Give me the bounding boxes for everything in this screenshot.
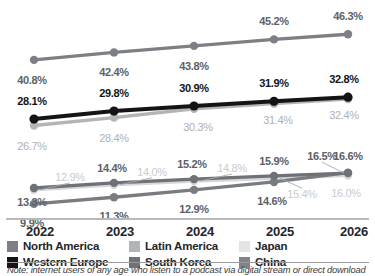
data-label-layer: 40.8%42.4%43.8%45.2%46.3%28.1%29.8%30.9%… [0,0,375,222]
data-label: 46.3% [333,10,363,22]
chart-note: Note: internet users of any age who list… [7,265,373,275]
data-label: 28.1% [17,95,47,107]
data-label: 12.9% [179,203,209,215]
data-label: 40.8% [17,74,47,86]
data-label: 15.9% [259,155,289,167]
data-label: 15.2% [177,158,207,170]
data-label: 26.7% [17,140,47,152]
data-label: 14.6% [257,195,287,207]
data-label: 14.4% [97,162,127,174]
legend-item-japan[interactable]: Japan [239,240,287,252]
data-label: 28.4% [99,132,129,144]
data-label: 32.8% [329,73,359,85]
data-label: 30.3% [183,121,213,133]
data-label: 31.9% [259,77,289,89]
podcast-listener-penetration-chart: 40.8%42.4%43.8%45.2%46.3%28.1%29.8%30.9%… [0,0,375,276]
x-tick-2022: 2022 [26,224,54,239]
legend-swatch-japan [239,241,250,252]
data-label: 31.4% [263,114,293,126]
legend-item-north-america[interactable]: North America [7,240,99,252]
x-tick-2024: 2024 [186,224,214,239]
data-label: 16.6% [333,150,363,162]
data-label: 15.4% [287,188,317,200]
legend-swatch-latin-america [129,241,140,252]
data-label: 30.9% [179,82,209,94]
x-tick-2026: 2026 [340,224,368,239]
data-label: 45.2% [259,15,289,27]
data-label: 43.8% [179,60,209,72]
data-label: 13.3% [17,196,47,208]
x-axis-line [6,218,369,220]
legend-label-japan: Japan [255,240,287,252]
legend-item-latin-america[interactable]: Latin America [129,240,218,252]
data-label: 16.0% [331,187,361,199]
data-label: 14.8% [217,162,247,174]
note-divider [7,262,369,263]
x-tick-2025: 2025 [266,224,294,239]
data-label: 32.4% [329,109,359,121]
legend-label-latin-america: Latin America [145,240,218,252]
x-axis: 2022 2023 2024 2025 2026 [6,218,369,240]
x-tick-2023: 2023 [106,224,134,239]
data-label: 12.9% [55,171,85,183]
legend-swatch-north-america [7,241,18,252]
data-label: 14.0% [137,166,167,178]
data-label: 42.4% [99,66,129,78]
data-label: 29.8% [99,87,129,99]
legend-label-north-america: North America [23,240,99,252]
